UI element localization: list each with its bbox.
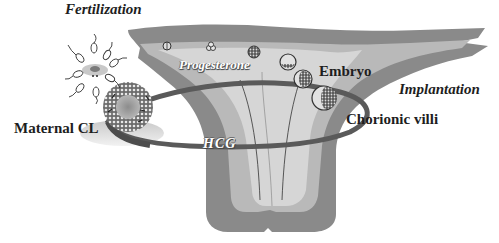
label-embryo: Embryo: [319, 63, 372, 80]
label-hcg: HCG: [203, 136, 236, 152]
blastocyst-1: [280, 54, 296, 70]
corpus-luteum: [103, 82, 153, 132]
label-maternal-cl: Maternal CL: [14, 120, 99, 137]
label-chorionic-villi: Chorionic villi: [346, 111, 438, 128]
label-progesterone: Progesterone: [179, 57, 250, 73]
uterus: [128, 24, 488, 232]
blastocyst-3: [312, 86, 337, 110]
label-implantation: Implantation: [399, 81, 480, 98]
blastocyst-2: [294, 70, 312, 88]
diagram-canvas: Fertilization Progesterone Embryo Implan…: [0, 0, 499, 243]
label-fertilization: Fertilization: [65, 1, 142, 18]
